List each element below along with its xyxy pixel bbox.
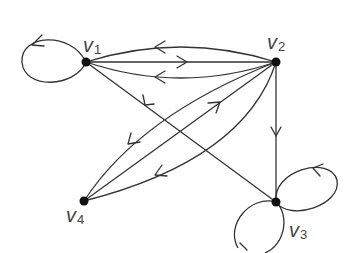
label-v1: v1 xyxy=(83,34,101,57)
label-v4: v4 xyxy=(66,204,84,227)
edge-v3-loop-right xyxy=(276,167,338,210)
edge-v2-v1-upper xyxy=(86,47,276,62)
node-v4 xyxy=(80,197,89,206)
label-v2: v2 xyxy=(267,31,285,54)
edge-v2-v1-lower xyxy=(86,62,276,78)
label-v3: v3 xyxy=(289,219,307,242)
arrow-v2-v4-upper xyxy=(128,133,140,144)
node-v2 xyxy=(272,58,281,67)
directed-graph-diagram: v1 v2 v3 v4 xyxy=(0,0,361,253)
node-v3 xyxy=(272,198,281,207)
arrow-v3-loop-right xyxy=(313,164,323,176)
edge-v1-loop xyxy=(22,40,86,82)
node-v1 xyxy=(82,58,91,67)
arrow-v3-loop-bottom xyxy=(240,243,247,250)
arrow-v3-v1 xyxy=(143,95,154,105)
